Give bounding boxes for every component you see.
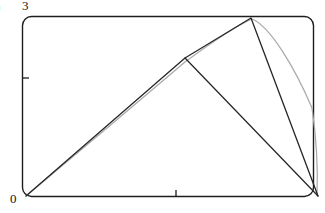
figure-panel: ) 3 0: [0, 0, 325, 213]
plot-canvas: [0, 0, 325, 213]
plot-frame: [23, 17, 314, 197]
smooth-curve-series: [26, 19, 317, 196]
piecewise-linear-series: [26, 18, 318, 196]
